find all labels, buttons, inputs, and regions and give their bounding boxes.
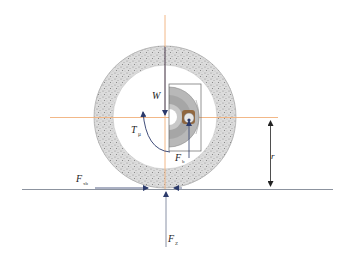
- normal-force-subscript: Z: [175, 241, 178, 246]
- bearing-force-label: F: [174, 152, 182, 163]
- weight-label: W: [152, 90, 162, 101]
- radius-label: r: [271, 151, 275, 161]
- wheel-force-diagram: W T μ F b F xb F Z r: [0, 0, 352, 262]
- torque-subscript: μ: [138, 131, 141, 137]
- torque-arc: [143, 112, 170, 152]
- bearing-force-subscript: b: [182, 159, 185, 164]
- braking-force-subscript: xb: [83, 181, 89, 186]
- normal-force-label: F: [167, 233, 175, 244]
- torque-label: T: [131, 124, 138, 135]
- braking-force-label: F: [75, 173, 83, 184]
